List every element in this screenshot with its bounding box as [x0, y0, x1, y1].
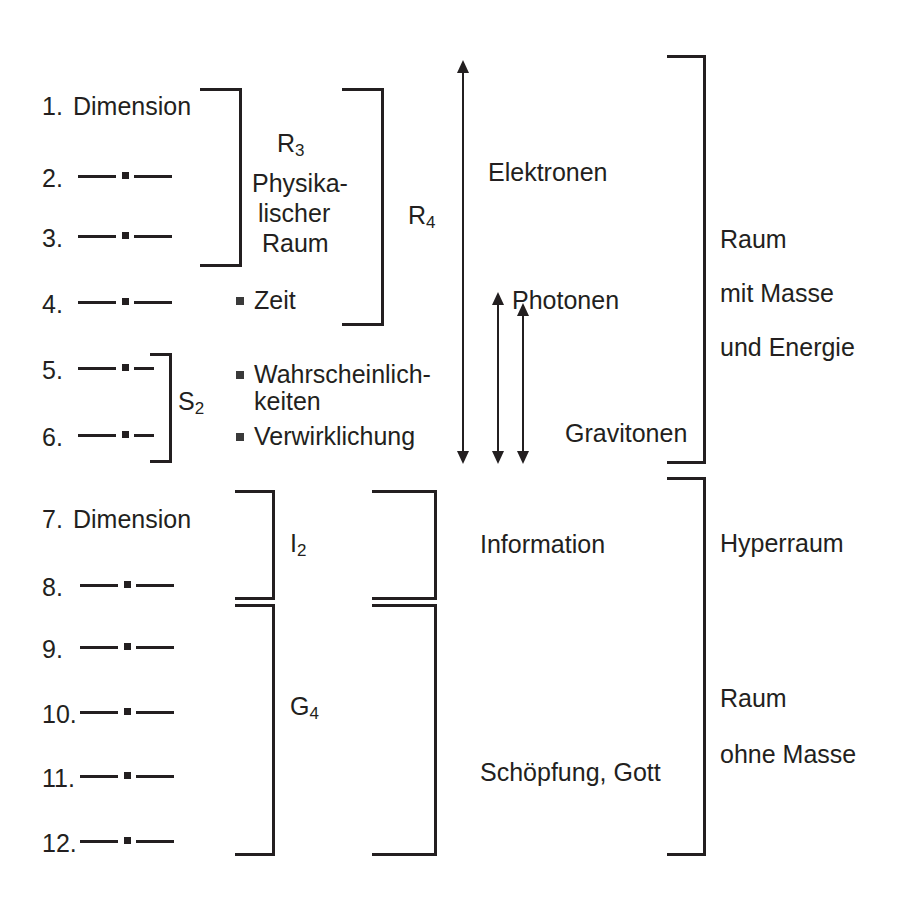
- arrowhead-down-photonen: [492, 451, 504, 464]
- arrow-photonen: [490, 292, 506, 464]
- bullet-label-wahrscheinlichkeiten-cont: keiten: [254, 389, 321, 414]
- arrow-gravitonen: [515, 303, 531, 464]
- arrow-elektronen: [455, 60, 471, 464]
- bullet-label-wahrscheinlichkeiten: Wahrscheinlich-: [254, 362, 431, 387]
- group-label-s2: S2: [178, 389, 204, 417]
- diagram-canvas: 1. Dimension 2. 3. 4. 5. 6. 7. Dimension…: [0, 0, 912, 903]
- arrow-shaft-photonen: [497, 301, 499, 455]
- bracket-schoepfung: [372, 604, 437, 856]
- bracket-raum-mit-masse: [667, 55, 706, 464]
- physical-space-line-1: Physika-: [252, 171, 348, 196]
- right-label-raum: Raum: [720, 227, 787, 252]
- group-label-i2-base: I: [290, 529, 297, 557]
- group-label-i2: I2: [290, 531, 306, 559]
- group-label-r4: R4: [408, 203, 436, 231]
- arrowhead-down-gravitonen: [517, 451, 529, 464]
- dimension-index-9: 9.: [42, 637, 63, 662]
- dimension-index-5: 5.: [42, 358, 63, 383]
- group-label-r3: R3: [277, 131, 305, 159]
- group-label-r3-base: R: [277, 129, 295, 157]
- group-label-s2-sub: 2: [195, 399, 204, 418]
- bracket-r3: [200, 88, 242, 267]
- dimension-line-3: [78, 223, 172, 249]
- dimension-line-12: [80, 828, 174, 854]
- bracket-information: [372, 490, 437, 600]
- physical-space-line-3: Raum: [262, 231, 329, 256]
- right-label-mit-masse: mit Masse: [720, 281, 834, 306]
- dimension-line-8: [80, 572, 174, 598]
- bracket-s2: [150, 353, 172, 463]
- physical-space-line-2: lischer: [258, 201, 330, 226]
- group-label-r4-base: R: [408, 201, 426, 229]
- dimension-label-1: Dimension: [73, 94, 191, 119]
- group-label-s2-base: S: [178, 387, 195, 415]
- bullet-square-zeit: [236, 297, 244, 305]
- bullet-square-verwirklichung: [236, 433, 244, 441]
- bullet-square-wahrscheinlichkeiten: [236, 371, 244, 379]
- group-label-i2-sub: 2: [297, 541, 306, 560]
- bullet-label-verwirklichung: Verwirklichung: [254, 424, 415, 449]
- dimension-index-1: 1.: [42, 94, 63, 119]
- right-label-raum-lower: Raum: [720, 686, 787, 711]
- dimension-index-2: 2.: [42, 166, 63, 191]
- dimension-line-9: [80, 634, 174, 660]
- dimension-label-7: Dimension: [73, 507, 191, 532]
- group-label-g4-base: G: [290, 692, 309, 720]
- dimension-line-11: [80, 763, 174, 789]
- bullet-label-zeit: Zeit: [254, 288, 296, 313]
- dimension-line-6: [78, 422, 154, 448]
- bracket-hyperraum: [667, 477, 706, 856]
- dimension-index-4: 4.: [42, 292, 63, 317]
- dimension-line-4: [78, 289, 172, 315]
- lower-label-information: Information: [480, 532, 605, 557]
- group-label-g4: G4: [290, 694, 319, 722]
- dimension-index-8: 8.: [42, 575, 63, 600]
- dimension-index-7: 7.: [42, 507, 63, 532]
- group-label-r4-sub: 4: [426, 213, 435, 232]
- bracket-g4: [235, 604, 275, 856]
- dimension-line-2: [78, 163, 172, 189]
- arrow-shaft-gravitonen: [522, 312, 524, 455]
- bracket-i2: [235, 490, 275, 600]
- dimension-index-3: 3.: [42, 226, 63, 251]
- dimension-line-10: [80, 699, 174, 725]
- arrow-label-elektronen: Elektronen: [488, 160, 608, 185]
- dimension-index-11: 11.: [42, 766, 75, 791]
- dimension-index-6: 6.: [42, 425, 63, 450]
- dimension-index-12: 12.: [42, 831, 77, 856]
- group-label-r3-sub: 3: [295, 141, 304, 160]
- lower-label-schoepfung-gott: Schöpfung, Gott: [480, 760, 661, 785]
- arrowhead-down-elektronen: [457, 451, 469, 464]
- right-label-ohne-masse: ohne Masse: [720, 742, 856, 767]
- bracket-r4: [342, 88, 384, 326]
- group-label-g4-sub: 4: [309, 704, 318, 723]
- right-label-und-energie: und Energie: [720, 335, 855, 360]
- dimension-index-10: 10.: [42, 702, 77, 727]
- arrow-shaft-elektronen: [462, 69, 464, 455]
- dimension-line-5: [78, 355, 154, 381]
- right-label-hyperraum: Hyperraum: [720, 531, 844, 556]
